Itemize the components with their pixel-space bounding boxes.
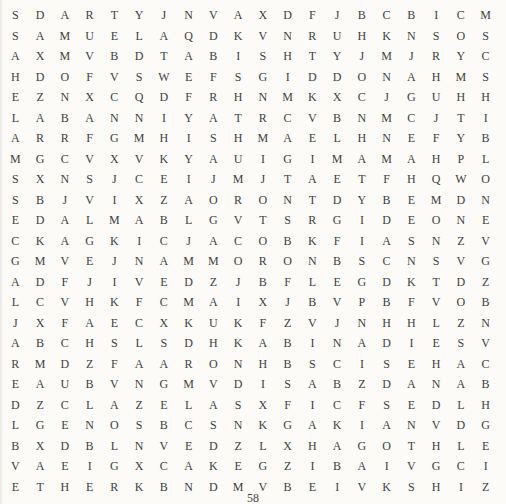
grid-letter-r3c10: I — [226, 46, 251, 67]
grid-letter-r13c1: G — [3, 251, 28, 272]
grid-letter-r16c17: H — [399, 313, 424, 334]
grid-letter-r2c8: Q — [176, 26, 201, 47]
grid-letter-r10c11: O — [251, 190, 276, 211]
grid-letter-r19c17: A — [399, 374, 424, 395]
grid-letter-r8c11: I — [251, 149, 276, 170]
grid-letter-r21c5: O — [102, 415, 127, 436]
grid-letter-r6c17: C — [399, 108, 424, 129]
grid-letter-r15c6: F — [127, 292, 152, 313]
grid-letter-r5c4: X — [77, 87, 102, 108]
grid-letter-r23c8: A — [176, 456, 201, 477]
grid-letter-r7c20: B — [473, 128, 498, 149]
grid-letter-r8c6: V — [127, 149, 152, 170]
grid-letter-r1c17: B — [399, 5, 424, 26]
grid-letter-r21c10: N — [226, 415, 251, 436]
grid-letter-r20c1: D — [3, 395, 28, 416]
grid-letter-r10c18: M — [424, 190, 449, 211]
grid-letter-r22c1: B — [3, 436, 28, 457]
grid-letter-r16c13: V — [300, 313, 325, 334]
grid-letter-r11c19: N — [449, 210, 474, 231]
grid-letter-r16c19: Z — [449, 313, 474, 334]
grid-letter-r20c19: L — [449, 395, 474, 416]
grid-letter-r19c14: B — [325, 374, 350, 395]
grid-letter-r19c6: N — [127, 374, 152, 395]
grid-letter-r6c6: N — [127, 108, 152, 129]
grid-letter-r11c11: T — [251, 210, 276, 231]
grid-letter-r7c16: N — [374, 128, 399, 149]
grid-letter-r12c7: C — [152, 231, 177, 252]
grid-letter-r19c10: D — [226, 374, 251, 395]
grid-letter-r22c15: G — [350, 436, 375, 457]
grid-letter-r4c4: F — [77, 67, 102, 88]
grid-letter-r22c5: L — [102, 436, 127, 457]
grid-letter-r15c9: A — [201, 292, 226, 313]
grid-letter-r13c12: O — [275, 251, 300, 272]
grid-letter-r9c11: J — [251, 169, 276, 190]
grid-letter-r4c12: I — [275, 67, 300, 88]
grid-letter-r11c16: D — [374, 210, 399, 231]
grid-letter-r18c14: C — [325, 354, 350, 375]
grid-letter-r22c2: X — [28, 436, 53, 457]
grid-letter-r22c13: H — [300, 436, 325, 457]
grid-letter-r10c17: E — [399, 190, 424, 211]
grid-letter-r3c3: M — [53, 46, 78, 67]
grid-letter-r2c9: D — [201, 26, 226, 47]
grid-letter-r19c13: A — [300, 374, 325, 395]
grid-letter-r13c11: R — [251, 251, 276, 272]
grid-letter-r16c3: F — [53, 313, 78, 334]
grid-letter-r14c7: E — [152, 272, 177, 293]
grid-letter-r5c18: U — [424, 87, 449, 108]
grid-letter-r19c9: V — [201, 374, 226, 395]
grid-letter-r3c5: B — [102, 46, 127, 67]
grid-letter-r18c12: B — [275, 354, 300, 375]
grid-letter-r18c19: A — [449, 354, 474, 375]
grid-letter-r1c13: F — [300, 5, 325, 26]
grid-letter-r8c10: U — [226, 149, 251, 170]
grid-letter-r12c10: C — [226, 231, 251, 252]
grid-letter-r17c8: D — [176, 333, 201, 354]
grid-letter-r1c7: J — [152, 5, 177, 26]
grid-letter-r21c17: N — [399, 415, 424, 436]
grid-letter-r17c15: A — [350, 333, 375, 354]
grid-letter-r10c1: S — [3, 190, 28, 211]
grid-letter-r2c18: S — [424, 26, 449, 47]
grid-letter-r4c7: W — [152, 67, 177, 88]
grid-letter-r5c6: Q — [127, 87, 152, 108]
grid-letter-r9c3: N — [53, 169, 78, 190]
grid-letter-r7c12: A — [275, 128, 300, 149]
grid-letter-r17c4: H — [77, 333, 102, 354]
grid-letter-r14c14: E — [325, 272, 350, 293]
grid-letter-r1c10: A — [226, 5, 251, 26]
grid-letter-r11c18: O — [424, 210, 449, 231]
grid-letter-r18c20: C — [473, 354, 498, 375]
grid-letter-r18c18: H — [424, 354, 449, 375]
grid-letter-r8c9: A — [201, 149, 226, 170]
grid-letter-r17c2: B — [28, 333, 53, 354]
grid-letter-r19c2: A — [28, 374, 53, 395]
grid-letter-r23c19: C — [449, 456, 474, 477]
grid-letter-r16c2: X — [28, 313, 53, 334]
grid-letter-r15c18: V — [424, 292, 449, 313]
grid-letter-r8c17: A — [399, 149, 424, 170]
grid-letter-r4c11: G — [251, 67, 276, 88]
grid-letter-r22c11: L — [251, 436, 276, 457]
grid-letter-r3c4: V — [77, 46, 102, 67]
grid-letter-r4c17: A — [399, 67, 424, 88]
grid-letter-r1c5: T — [102, 5, 127, 26]
grid-letter-r9c8: I — [176, 169, 201, 190]
grid-letter-r8c14: M — [325, 149, 350, 170]
grid-letter-r7c1: A — [3, 128, 28, 149]
grid-letter-r1c18: I — [424, 5, 449, 26]
grid-letter-r7c2: R — [28, 128, 53, 149]
grid-letter-r8c5: X — [102, 149, 127, 170]
grid-letter-r14c12: F — [275, 272, 300, 293]
grid-letter-r4c14: D — [325, 67, 350, 88]
grid-letter-r10c13: T — [300, 190, 325, 211]
grid-letter-r21c7: B — [152, 415, 177, 436]
grid-letter-r9c16: F — [374, 169, 399, 190]
grid-letter-r14c20: Z — [473, 272, 498, 293]
grid-letter-r13c15: S — [350, 251, 375, 272]
grid-letter-r18c13: S — [300, 354, 325, 375]
grid-letter-r23c2: A — [28, 456, 53, 477]
grid-letter-r15c3: V — [53, 292, 78, 313]
